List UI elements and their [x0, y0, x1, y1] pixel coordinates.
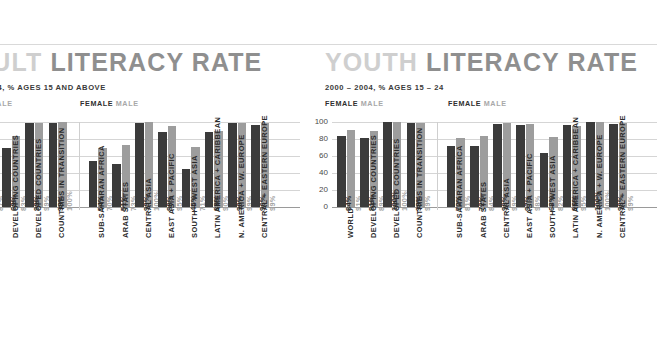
category-label: DEVELOPED COUNTRIES	[35, 138, 42, 238]
panel-adult-literacy: ADULT LITERACY RATE 2000 – 2004, % AGES …	[0, 0, 300, 360]
category-label: SOUTH + WEST ASIA	[549, 155, 556, 238]
y-axis-tick-label: 40	[306, 169, 328, 177]
y-axis-tick-label: 60	[306, 152, 328, 160]
category-label: CENTRAL + EASTERN EUROPE	[619, 115, 626, 238]
y-axis-tick-label: 0	[306, 203, 328, 211]
category-label: CENTRAL ASIA	[503, 178, 510, 238]
block-separator	[437, 122, 438, 210]
category-label: DEVELOPED COUNTRIES	[393, 138, 400, 238]
category-label: EAST ASIA + PACIFIC	[526, 153, 533, 238]
category-label: COUNTRIES IN TRANSITION	[58, 127, 65, 238]
value-label-male: 99%	[269, 195, 276, 211]
category-label: ARAB STATES	[480, 182, 487, 238]
category-label: ARAB STATES	[122, 182, 129, 238]
value-label-male: 99%	[627, 195, 634, 211]
y-axis-tick-label: 80	[306, 135, 328, 143]
category-label: CENTRAL + EASTERN EUROPE	[261, 115, 268, 238]
value-label-male: 100%	[66, 191, 73, 211]
category-label: COUNTRIES IN TRANSITION	[416, 127, 423, 238]
category-label: CENTRAL ASIA	[145, 178, 152, 238]
category-label: N. AMERICA + W. EUROPE	[238, 134, 245, 238]
panel-youth-plot: 02040608010084%91%WORLD81%89%DEVELOPING …	[300, 0, 657, 360]
category-label: LATIN AMERICA + CARIBBEAN	[214, 117, 221, 238]
category-label: SOUTH + WEST ASIA	[191, 155, 198, 238]
infographic-page: ADULT LITERACY RATE 2000 – 2004, % AGES …	[0, 0, 657, 360]
category-label: WORLD	[347, 208, 354, 238]
value-label-male: 99%	[424, 195, 431, 211]
y-axis-tick-label: 20	[306, 186, 328, 194]
category-label: DEVELOPING COUNTRIES	[370, 135, 377, 238]
category-label: EAST ASIA + PACIFIC	[168, 153, 175, 238]
panel-adult-plot: 77%87%WORLD69%83%DEVELOPING COUNTRIES99%…	[0, 0, 300, 360]
category-label: N. AMERICA + W. EUROPE	[596, 134, 603, 238]
category-label: SUB-SAHARAN AFRICA	[98, 145, 105, 238]
category-label: LATIN AMERICA + CARIBBEAN	[572, 117, 579, 238]
category-label: DEVELOPING COUNTRIES	[12, 135, 19, 238]
panel-youth-literacy: YOUTH LITERACY RATE 2000 – 2004, % AGES …	[300, 0, 657, 360]
category-label: SUB-SAHARAN AFRICA	[456, 145, 463, 238]
y-axis-tick-label: 100	[306, 118, 328, 126]
block-separator	[79, 122, 80, 210]
